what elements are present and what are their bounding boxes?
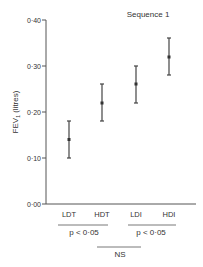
significance-labels: p < 0·05 p < 0·05 NS <box>69 228 166 259</box>
point-hdi <box>168 56 171 59</box>
x-tick-labels: LDT HDT LDI HDI <box>62 210 176 219</box>
sig-label-mid: NS <box>114 250 125 259</box>
y-label-unit: (litres) <box>11 90 20 115</box>
point-hdt <box>101 102 104 105</box>
x-tick-label: LDT <box>62 210 77 219</box>
y-tick-label: 0·10 <box>27 155 41 162</box>
y-tick-label: 0·40 <box>27 17 41 24</box>
y-tick-label: 0·30 <box>27 63 41 70</box>
sig-label-right: p < 0·05 <box>136 228 166 237</box>
x-tick-label: HDT <box>94 210 110 219</box>
chart-title: Sequence 1 <box>127 10 170 19</box>
chart: Sequence 1 0·40 0·30 0·20 0·10 0·00 FEV1… <box>0 0 203 267</box>
y-axis-label: FEV1 (litres) <box>11 90 21 133</box>
y-tick-label: 0·20 <box>27 109 41 116</box>
point-ldt <box>68 138 71 141</box>
sig-label-left: p < 0·05 <box>69 228 99 237</box>
x-tick-label: LDI <box>130 210 142 219</box>
y-ticks <box>42 20 46 204</box>
error-bars <box>67 38 171 158</box>
data-points <box>68 56 171 142</box>
y-label-main: FEV <box>11 117 20 133</box>
x-tick-label: HDI <box>163 210 176 219</box>
point-ldi <box>135 83 138 86</box>
y-tick-labels: 0·40 0·30 0·20 0·10 0·00 <box>27 17 41 208</box>
svg-text:FEV1 (litres): FEV1 (litres) <box>11 90 21 133</box>
y-tick-label: 0·00 <box>27 201 41 208</box>
